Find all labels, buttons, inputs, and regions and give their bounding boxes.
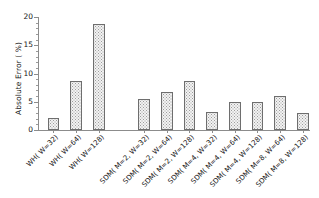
y-axis-tick-major xyxy=(34,17,38,18)
y-axis-tick-minor xyxy=(36,40,38,41)
bar xyxy=(138,99,150,130)
y-axis-tick-minor xyxy=(36,68,38,69)
y-axis-tick-minor xyxy=(36,107,38,108)
y-axis-tick-label: 15 xyxy=(23,42,33,50)
bar xyxy=(93,24,105,130)
y-axis-tick-minor xyxy=(36,124,38,125)
y-axis-tick-label: 5 xyxy=(28,98,33,106)
bar xyxy=(206,112,218,130)
y-axis-tick-minor xyxy=(36,113,38,114)
y-axis-tick-minor xyxy=(36,28,38,29)
bar xyxy=(48,118,60,130)
y-axis-tick-minor xyxy=(36,51,38,52)
bar xyxy=(252,102,264,130)
bar xyxy=(161,92,173,130)
y-axis-tick-minor xyxy=(36,85,38,86)
plot-area: 05101520 xyxy=(38,17,310,130)
y-axis-tick-minor xyxy=(36,57,38,58)
y-axis-tick-minor xyxy=(36,62,38,63)
y-axis-tick-label: 20 xyxy=(23,13,33,21)
bar xyxy=(274,96,286,130)
y-axis-tick-major xyxy=(34,130,38,131)
y-axis-line xyxy=(38,17,39,130)
y-axis-tick-major xyxy=(34,74,38,75)
y-axis-tick-minor xyxy=(36,79,38,80)
y-axis-tick-major xyxy=(34,45,38,46)
y-axis-tick-label: 10 xyxy=(23,70,33,78)
y-axis-tick-label: 0 xyxy=(28,126,33,134)
y-axis-tick-minor xyxy=(36,23,38,24)
x-axis-line xyxy=(38,130,310,131)
y-axis-tick-minor xyxy=(36,34,38,35)
y-axis-tick-minor xyxy=(36,119,38,120)
y-axis-tick-minor xyxy=(36,96,38,97)
bar xyxy=(184,81,196,130)
bar-chart: Absolute Error ( %) 05101520 WH( W=32)WH… xyxy=(0,0,319,198)
y-axis-tick-major xyxy=(34,102,38,103)
bar xyxy=(297,113,309,131)
bar xyxy=(229,102,241,130)
bar xyxy=(70,81,82,130)
y-axis-tick-minor xyxy=(36,90,38,91)
y-axis-label-text: Absolute Error ( %) xyxy=(15,41,24,114)
